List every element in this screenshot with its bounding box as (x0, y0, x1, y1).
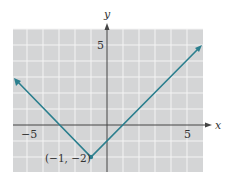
x-axis-arrow-icon (205, 123, 212, 128)
x-axis-label: x (215, 119, 222, 132)
graph: x y −5 5 5 (−1, −2) (0, 0, 229, 186)
y-axis-arrow-icon (105, 23, 110, 30)
x-tick-label-5: 5 (184, 128, 191, 141)
vertex-label: (−1, −2) (45, 152, 91, 164)
x-tick-label-neg5: −5 (21, 128, 37, 141)
y-axis-label: y (103, 8, 111, 21)
grid-background (13, 29, 203, 172)
y-tick-label-5: 5 (97, 39, 104, 52)
